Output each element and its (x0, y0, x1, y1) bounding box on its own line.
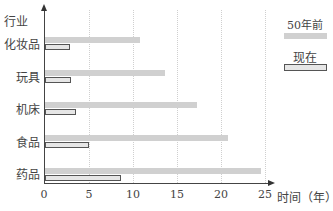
gridline-15 (177, 10, 178, 183)
bar-50-years-ago (45, 102, 197, 108)
x-tick-label: 20 (211, 188, 231, 201)
gridline-20 (221, 10, 222, 183)
bar-now (45, 109, 76, 115)
x-axis-label: 时间（年） (277, 188, 333, 205)
legend-label-now: 现在 (280, 48, 330, 65)
gridline-25 (265, 10, 266, 183)
legend-swatch-50-years-ago (284, 33, 327, 39)
bar-now (45, 44, 70, 50)
gridline-5 (89, 10, 90, 183)
gridline-10 (133, 10, 134, 183)
category-label: 化妆品 (0, 38, 40, 52)
bar-now (45, 142, 89, 148)
category-label: 药品 (0, 168, 40, 182)
legend-label-50-years-ago: 50年前 (280, 16, 330, 32)
x-tick-label: 5 (79, 188, 99, 201)
y-axis-arrow-icon (41, 4, 47, 11)
legend-swatch-now (284, 64, 327, 71)
x-axis (44, 183, 269, 184)
bar-50-years-ago (45, 135, 228, 141)
chart: 行业 化妆品 玩具 机床 食品 药品 0 5 10 15 20 25 时间（年）… (0, 0, 333, 211)
category-label: 食品 (0, 136, 40, 150)
category-label: 玩具 (0, 71, 40, 85)
bar-50-years-ago (45, 37, 140, 43)
x-tick-label: 10 (123, 188, 143, 201)
x-tick-label: 15 (167, 188, 187, 201)
bar-now (45, 175, 121, 181)
bar-50-years-ago (45, 70, 165, 76)
y-axis-label: 行业 (4, 12, 28, 29)
x-tick-label: 25 (255, 188, 275, 201)
category-label: 机床 (0, 103, 40, 117)
bar-50-years-ago (45, 168, 261, 174)
x-axis-arrow-icon (268, 180, 275, 186)
x-tick-label: 0 (34, 188, 54, 201)
bar-now (45, 77, 71, 83)
